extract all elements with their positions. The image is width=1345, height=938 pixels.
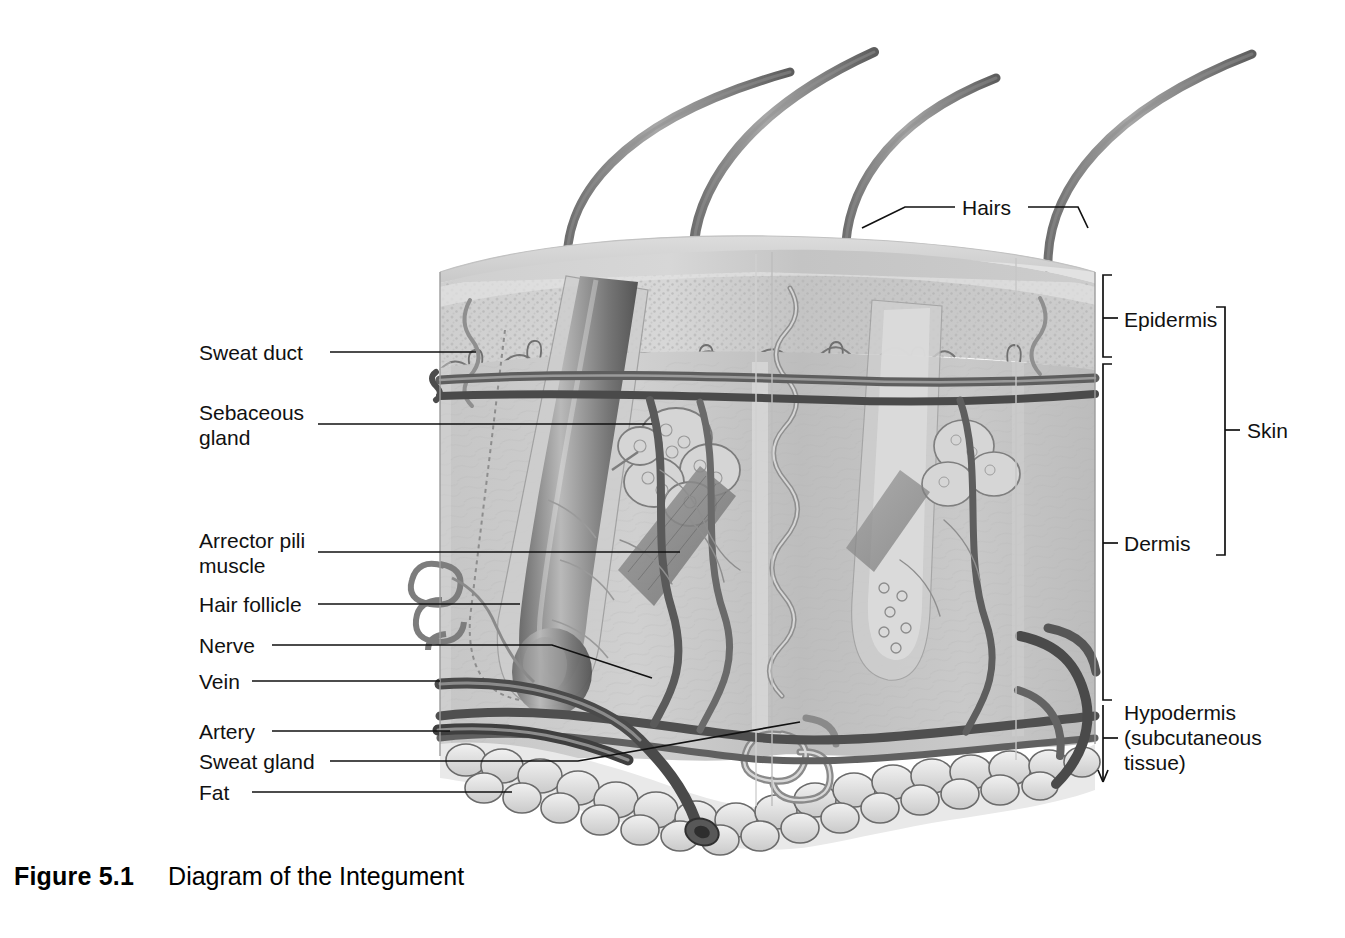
leader-hairs-right bbox=[1028, 207, 1088, 228]
label-arrector-pili-l2: muscle bbox=[199, 553, 266, 578]
label-sweat-gland: Sweat gland bbox=[199, 749, 315, 774]
label-sebaceous-gland-l1: Sebaceous bbox=[199, 400, 304, 425]
label-sebaceous-gland-l2: gland bbox=[199, 425, 250, 450]
label-fat: Fat bbox=[199, 780, 229, 805]
label-skin: Skin bbox=[1247, 418, 1288, 443]
leader-sweat-gland bbox=[330, 722, 800, 761]
leader-nerve bbox=[272, 645, 652, 678]
label-nerve: Nerve bbox=[199, 633, 255, 658]
figure-caption: Figure 5.1Diagram of the Integument bbox=[14, 862, 464, 891]
label-hairs: Hairs bbox=[962, 195, 1011, 220]
label-arrector-pili-l1: Arrector pili bbox=[199, 528, 305, 553]
figure-canvas: Sweat duct Sebaceous gland Arrector pili… bbox=[0, 0, 1345, 938]
label-hypodermis-l3: tissue) bbox=[1124, 750, 1186, 775]
bracket-skin bbox=[1216, 307, 1225, 555]
leader-hairs-left bbox=[862, 207, 955, 228]
label-vein: Vein bbox=[199, 669, 240, 694]
label-hair-follicle: Hair follicle bbox=[199, 592, 302, 617]
label-sweat-duct: Sweat duct bbox=[199, 340, 303, 365]
bracket-epidermis bbox=[1103, 275, 1112, 357]
label-dermis: Dermis bbox=[1124, 531, 1191, 556]
label-epidermis: Epidermis bbox=[1124, 307, 1217, 332]
label-hypodermis-l1: Hypodermis bbox=[1124, 700, 1236, 725]
label-hypodermis-l2: (subcutaneous bbox=[1124, 725, 1262, 750]
label-artery: Artery bbox=[199, 719, 255, 744]
bracket-dermis bbox=[1103, 364, 1112, 700]
figure-title: Diagram of the Integument bbox=[168, 862, 464, 890]
figure-number: Figure 5.1 bbox=[14, 862, 134, 890]
